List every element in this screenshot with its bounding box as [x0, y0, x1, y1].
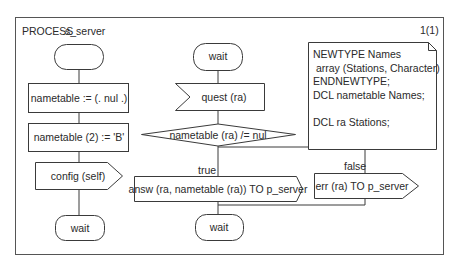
declarations-text: NEWTYPE Names array (Stations, Character… — [313, 48, 440, 129]
true-branch-label: true — [198, 164, 216, 176]
process-name: s_server — [65, 25, 105, 37]
output-config-text: config (self) — [51, 170, 105, 182]
start-symbol — [55, 45, 104, 70]
main-end-wait-text: wait — [210, 221, 229, 233]
input-quest-text: quest (ra) — [202, 91, 247, 103]
err-output-text: err (ra) TO p_server — [316, 180, 409, 192]
left-wait-text: wait — [71, 222, 90, 234]
false-branch-label: false — [344, 160, 366, 172]
task-2-text: nametable (2) := 'B' — [34, 131, 125, 143]
answ-output-text: answ (ra, nametable (ra)) TO p_server — [129, 183, 308, 195]
task-1-text: nametable := (. nul .) — [31, 92, 128, 104]
main-wait-text: wait — [209, 50, 228, 62]
decision-text: nametable (ra) /= nul — [169, 129, 266, 141]
page-number: 1(1) — [420, 24, 439, 36]
